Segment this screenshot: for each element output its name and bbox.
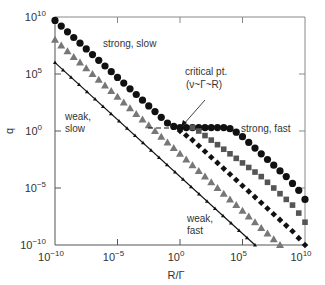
y-axis-label: q [3, 128, 15, 134]
strong-fast-label: strong, fast [241, 123, 291, 134]
chart: 10−1010−1010−510−510010010510510101010 c… [0, 0, 325, 285]
weak-slow-label-line1: weak, [64, 111, 91, 122]
critical-label-line2: (ν~Γ~R) [186, 79, 222, 90]
y-tick-label: 100 [25, 123, 42, 137]
y-tick-label: 10−10 [20, 237, 46, 251]
x-axis-label: R/Γ [167, 269, 184, 281]
series-weak [53, 61, 257, 247]
x-tick-label: 100 [168, 249, 185, 263]
x-tick-label: 10−5 [103, 249, 125, 263]
critical-label-line1: critical pt. [185, 66, 227, 77]
x-tick-label: 1010 [290, 249, 312, 263]
critical-arrow [183, 100, 205, 125]
x-tick-label: 10−10 [38, 249, 64, 263]
weak-fast-label-line2: fast [187, 225, 203, 236]
y-tick-label: 1010 [25, 9, 47, 23]
strong-slow-label: strong, slow [103, 38, 157, 49]
x-tick-label: 105 [230, 249, 247, 263]
series-strong [51, 17, 308, 203]
y-tick-label: 10−5 [25, 180, 47, 194]
weak-slow-label-line2: slow [65, 123, 86, 134]
weak-fast-label-line1: weak, [186, 213, 213, 224]
y-tick-label: 105 [25, 66, 42, 80]
